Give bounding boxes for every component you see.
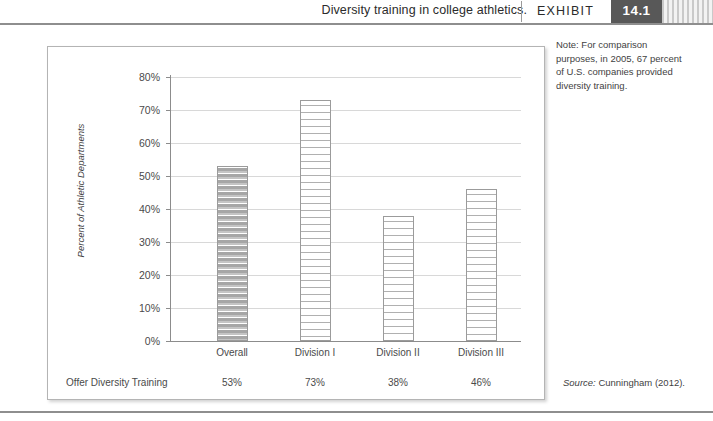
y-tick-label-80: 80% [114,71,160,83]
data-value-division-iii: 46% [436,377,526,388]
x-axis-label-division-iii: Division III [436,347,526,358]
source-text: Cunningham (2012). [598,377,685,388]
y-tick-label-0: 0% [114,335,160,347]
bar-division-iii [466,189,497,341]
x-axis-label-division-ii: Division II [353,347,443,358]
y-tick-label-60: 60% [114,137,160,149]
source-prefix: Source: [563,377,596,388]
exhibit-label: EXHIBIT [537,4,594,18]
chart-panel: Percent of Athletic Departments 0% 10% 2… [47,46,545,400]
x-axis-line [170,341,521,342]
exhibit-number-badge: 14.1 [611,0,662,23]
plot-area: Percent of Athletic Departments 0% 10% 2… [48,47,544,399]
y-axis-title: Percent of Athletic Departments [75,111,86,271]
footer-rule [0,411,713,413]
page-title: Diversity training in college athletics. [322,3,527,17]
x-axis-label-division-i: Division I [270,347,360,358]
bar-overall [217,166,248,341]
y-tick-label-40: 40% [114,203,160,215]
x-axis-label-overall: Overall [187,347,277,358]
bar-division-i [300,100,331,341]
source-citation: Source: Cunningham (2012). [563,377,713,388]
exhibit-header: Diversity training in college athletics.… [0,0,713,23]
data-value-overall: 53% [187,377,277,388]
gridline-80 [171,77,521,78]
bar-division-ii [383,216,414,341]
y-tick-label-20: 20% [114,269,160,281]
gridline-60 [171,143,521,144]
exhibit-number-text: 14.1 [611,3,662,18]
decorative-stripes [662,0,713,23]
y-tick-label-70: 70% [114,104,160,116]
gridline-70 [171,110,521,111]
header-divider [521,1,522,22]
data-value-division-ii: 38% [353,377,443,388]
comparison-note: Note: For comparison purposes, in 2005, … [556,38,691,92]
data-value-division-i: 73% [270,377,360,388]
header-rule [0,23,713,25]
y-tick-label-30: 30% [114,236,160,248]
y-tick-label-10: 10% [114,302,160,314]
data-row-label: Offer Diversity Training [66,377,206,388]
y-tick-label-50: 50% [114,170,160,182]
y-axis-line [170,75,171,342]
